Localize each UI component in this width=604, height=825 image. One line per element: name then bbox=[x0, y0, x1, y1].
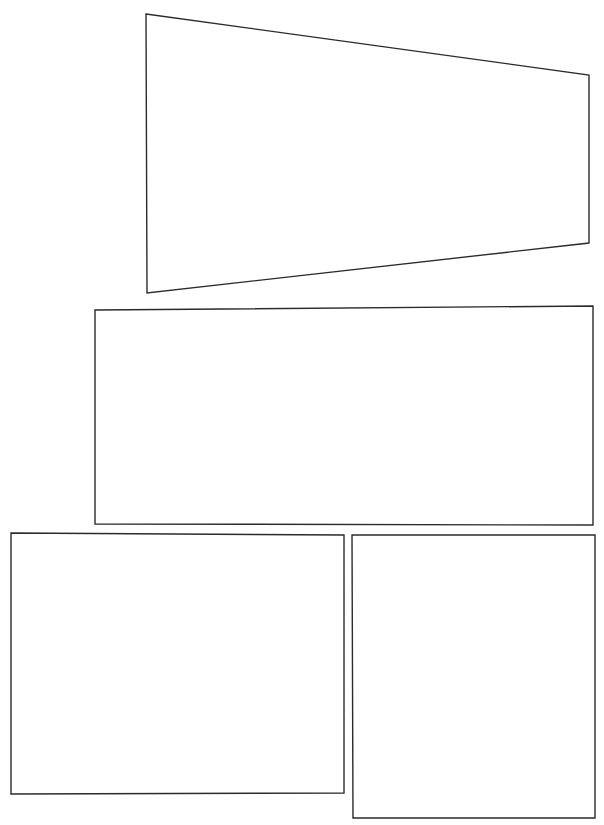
comic-page: Panel 1 Panel 2 Panel 3 Panel 4 bbox=[0, 0, 604, 825]
panel-4-bottom-right[interactable] bbox=[352, 535, 595, 818]
panel-2-middle-wide[interactable] bbox=[95, 306, 593, 525]
panel-canvas bbox=[0, 0, 604, 825]
panel-3-bottom-left[interactable] bbox=[11, 533, 344, 794]
